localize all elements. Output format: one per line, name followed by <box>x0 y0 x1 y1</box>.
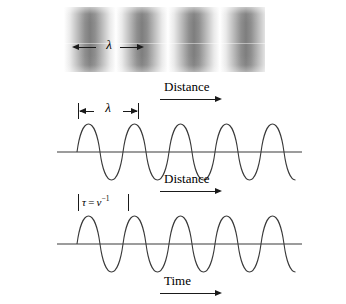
time-domain-sine-wave <box>52 210 304 282</box>
axis-label-distance-middle: Distance <box>160 172 280 196</box>
arrow-shaft <box>160 293 216 294</box>
measure-shaft-right <box>120 47 137 48</box>
axis-caption-text: Time <box>160 274 280 288</box>
wave-2-svg <box>52 210 304 282</box>
tau-period-formula: τ = ν−1 <box>82 194 109 208</box>
arrow-head-right-icon <box>215 188 222 194</box>
axis-direction-arrow <box>160 187 280 196</box>
arrow-head-left-icon <box>72 44 79 50</box>
wave-diagram-figure: λ Distance λ Distance <box>0 0 346 304</box>
axis-direction-arrow <box>160 289 280 298</box>
lambda-band-symbol: λ <box>98 37 120 53</box>
axis-direction-arrow <box>160 95 280 104</box>
arrow-shaft <box>160 191 216 192</box>
lambda-band-measure: λ <box>72 40 144 56</box>
measure-shaft-left <box>79 47 96 48</box>
axis-label-distance-top: Distance <box>160 80 280 104</box>
arrow-shaft <box>160 99 216 100</box>
measure-shaft-left <box>80 111 94 112</box>
measure-end-bar-left <box>78 194 79 211</box>
arrow-head-right-icon <box>215 96 222 102</box>
exponent-minus-one: −1 <box>101 194 109 203</box>
arrow-head-right-icon <box>215 290 222 296</box>
measure-end-bar-right <box>138 103 139 119</box>
axis-caption-text: Distance <box>160 172 280 186</box>
lambda-wave-symbol: λ <box>97 100 119 116</box>
axis-label-time-bottom: Time <box>160 274 280 298</box>
arrow-head-right-icon <box>137 44 144 50</box>
axis-caption-text: Distance <box>160 80 280 94</box>
measure-end-bar-right <box>128 194 129 211</box>
arrow-head-right-icon <box>131 108 138 114</box>
